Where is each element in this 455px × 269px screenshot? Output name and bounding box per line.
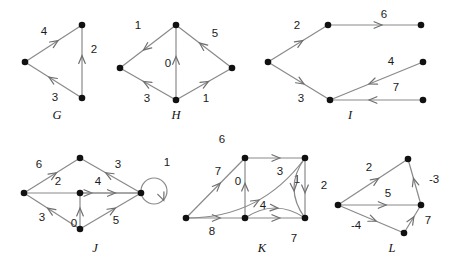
graph-figure: 423G15031H26347I63243051J670312847K2-35-… — [0, 0, 455, 269]
edge-weight-label: 7 — [291, 232, 297, 244]
edge-weight-label: 2 — [294, 19, 300, 31]
node-k_tr[interactable] — [302, 155, 309, 162]
node-k_br[interactable] — [302, 215, 309, 222]
edge-path-G-0[interactable] — [25, 25, 82, 62]
edge-I-1[interactable]: 6 — [328, 8, 421, 28]
edge-L-1[interactable]: -3 — [408, 159, 439, 205]
edge-H-3[interactable]: 3 — [120, 68, 176, 104]
graph-label-L: L — [388, 241, 396, 255]
node-l_left[interactable] — [335, 202, 342, 209]
edge-path-J-1[interactable] — [80, 158, 141, 193]
graph-H: 15031H — [117, 19, 236, 122]
node-j_bot[interactable] — [77, 226, 84, 233]
edge-I-2[interactable]: 3 — [268, 62, 330, 104]
edge-path-H-1[interactable] — [176, 25, 232, 68]
edge-K-1[interactable]: 7 — [186, 158, 245, 218]
edge-G-1[interactable]: 2 — [79, 25, 98, 98]
edge-K-8[interactable]: 7 — [245, 204, 305, 244]
edge-weight-label: 6 — [36, 158, 42, 170]
node-k_left[interactable] — [183, 215, 190, 222]
edge-path-J-6[interactable] — [80, 193, 141, 229]
edge-weight-label: 3 — [52, 91, 58, 103]
edge-K-5[interactable]: 2 — [290, 158, 327, 218]
edge-K-4[interactable]: 1 — [294, 158, 309, 218]
arrow-head-J-4 — [48, 208, 56, 215]
node-i_um[interactable] — [325, 22, 332, 29]
edge-J-1[interactable]: 3 — [80, 158, 141, 193]
graph-J: 63243051J — [21, 155, 171, 255]
node-g1[interactable] — [79, 22, 86, 29]
edge-weight-label: 0 — [165, 57, 171, 69]
edge-I-3[interactable]: 4 — [330, 55, 423, 100]
edge-weight-label: 0 — [235, 175, 241, 187]
node-l_top[interactable] — [405, 156, 412, 163]
edge-H-1[interactable]: 5 — [176, 25, 232, 68]
edge-K-6[interactable]: 8 — [186, 215, 245, 237]
edge-J-0[interactable]: 6 — [24, 158, 80, 193]
node-i_ur[interactable] — [418, 22, 425, 29]
edge-weight-label: 3 — [115, 158, 121, 170]
edge-weight-label: 4 — [95, 175, 102, 187]
node-h_right[interactable] — [229, 65, 236, 72]
edge-path-L-4[interactable] — [404, 205, 421, 233]
graph-I: 26347I — [265, 8, 427, 122]
edge-H-4[interactable]: 1 — [176, 68, 232, 104]
node-g0[interactable] — [22, 59, 29, 66]
edge-weight-label: 6 — [381, 8, 387, 20]
edge-path-I-3[interactable] — [330, 62, 423, 100]
edge-weight-label: 3 — [298, 92, 304, 104]
graph-label-G: G — [52, 108, 61, 122]
node-h_top[interactable] — [173, 22, 180, 29]
edge-weight-label: 7 — [425, 214, 431, 226]
edge-weight-label: 0 — [71, 217, 77, 229]
node-k_bm[interactable] — [242, 215, 249, 222]
node-i_lr[interactable] — [420, 97, 427, 104]
edge-G-2[interactable]: 3 — [25, 62, 82, 103]
arrow-head-L-0 — [370, 178, 378, 185]
edge-weight-label: 7 — [215, 165, 221, 177]
arrow-head-H-3 — [144, 81, 152, 88]
node-k_tl[interactable] — [242, 155, 249, 162]
arrow-head-J-7 — [158, 192, 164, 200]
edge-weight-label: 8 — [209, 225, 215, 237]
edge-path-L-1[interactable] — [408, 159, 421, 205]
node-l_bot[interactable] — [401, 230, 408, 237]
edge-L-0[interactable]: 2 — [338, 159, 408, 205]
node-j_left[interactable] — [21, 190, 28, 197]
arrow-head-I-0 — [294, 41, 302, 48]
graph-canvas: 423G15031H26347I63243051J670312847K2-35-… — [0, 0, 455, 269]
edge-L-3[interactable]: -4 — [338, 205, 404, 233]
edge-J-6[interactable]: 5 — [80, 193, 141, 229]
graph-label-J: J — [92, 241, 99, 255]
edge-I-0[interactable]: 2 — [268, 19, 328, 62]
edge-weight-label: 2 — [55, 175, 61, 187]
edge-L-2[interactable]: 5 — [338, 187, 421, 208]
node-g2[interactable] — [79, 95, 86, 102]
edge-H-2[interactable]: 0 — [165, 25, 180, 100]
edge-weight-label: 3 — [277, 165, 283, 177]
edge-L-4[interactable]: 7 — [404, 205, 431, 233]
edge-G-0[interactable]: 4 — [25, 25, 82, 62]
node-h_left[interactable] — [117, 65, 124, 72]
node-i_lm[interactable] — [327, 97, 334, 104]
node-h_bot[interactable] — [173, 97, 180, 104]
edge-weight-label: 4 — [388, 55, 395, 67]
edge-path-L-0[interactable] — [338, 159, 408, 205]
edge-weight-label: 5 — [385, 187, 391, 199]
edge-J-5[interactable]: 0 — [71, 193, 84, 229]
edge-weight-label: 2 — [366, 161, 372, 173]
arrow-head-G-0 — [50, 41, 58, 48]
node-l_right[interactable] — [418, 202, 425, 209]
node-j_right[interactable] — [138, 190, 145, 197]
node-i_left[interactable] — [265, 59, 272, 66]
arrow-head-J-1 — [106, 173, 114, 180]
edge-J-7[interactable]: 1 — [141, 156, 170, 204]
edge-weight-label: 2 — [91, 43, 97, 55]
node-j_ctr[interactable] — [77, 190, 84, 197]
node-j_top[interactable] — [77, 155, 84, 162]
edge-path-J-0[interactable] — [24, 158, 80, 193]
edge-path-L-3[interactable] — [338, 205, 404, 233]
graph-label-H: H — [170, 108, 181, 122]
edge-weight-label: 3 — [144, 92, 150, 104]
node-i_mr[interactable] — [420, 59, 427, 66]
